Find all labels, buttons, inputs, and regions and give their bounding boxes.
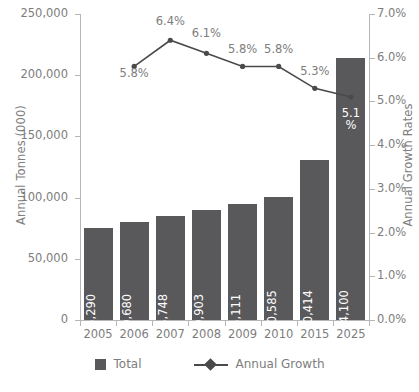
y-axis-title-left: Annual Tonnes (000) bbox=[14, 90, 28, 240]
y-tick-label-right: 5.0% bbox=[377, 93, 406, 107]
x-axis-label-2005: 2005 bbox=[80, 327, 116, 341]
x-axis-label-2009: 2009 bbox=[225, 327, 261, 341]
x-axis-label-2015: 2015 bbox=[297, 327, 333, 341]
x-axis-label-2007: 2007 bbox=[152, 327, 188, 341]
y-tick-left bbox=[75, 75, 80, 76]
annual-tonnes-growth-chart: Annual Tonnes (000) Annual Growth Rates … bbox=[0, 0, 419, 392]
y-tick-left bbox=[75, 136, 80, 137]
growth-line-marker bbox=[204, 51, 209, 56]
legend-swatch-icon bbox=[95, 359, 106, 370]
growth-value-label-2015: 5.3% bbox=[289, 64, 341, 78]
bar-2025: 214,1005.1% bbox=[336, 58, 365, 320]
y-tick-label-left: 150,000 bbox=[20, 128, 68, 142]
x-tick bbox=[261, 321, 262, 326]
y-tick-label-right: 7.0% bbox=[377, 6, 406, 20]
y-tick-right bbox=[370, 14, 375, 15]
x-tick bbox=[333, 321, 334, 326]
x-axis-label-2010: 2010 bbox=[261, 327, 297, 341]
y-tick-label-left: 200,000 bbox=[20, 67, 68, 81]
y-tick-right bbox=[370, 145, 375, 146]
y-tick-right bbox=[370, 276, 375, 277]
y-tick-label-right: 6.0% bbox=[377, 50, 406, 64]
x-tick bbox=[369, 321, 370, 326]
y-tick-label-left: 0 bbox=[61, 312, 68, 326]
bar-2009: 95,111 bbox=[228, 204, 257, 320]
y-tick-label-right: 3.0% bbox=[377, 181, 406, 195]
y-tick-left bbox=[75, 259, 80, 260]
y-tick-label-left: 100,000 bbox=[20, 190, 68, 204]
y-axis-title-right: Annual Growth Rates bbox=[401, 90, 415, 240]
y-tick-right bbox=[370, 189, 375, 190]
chart-legend: Total Annual Growth bbox=[0, 352, 419, 376]
y-axis-line-left bbox=[80, 14, 81, 321]
y-tick-label-right: 2.0% bbox=[377, 225, 406, 239]
growth-line-marker bbox=[168, 38, 173, 43]
growth-line-marker bbox=[240, 64, 245, 69]
growth-value-label-2008: 6.1% bbox=[180, 26, 232, 40]
growth-value-label-2010: 5.8% bbox=[253, 42, 305, 56]
y-tick-right bbox=[370, 101, 375, 102]
y-tick-label-right: 0.0% bbox=[377, 312, 406, 326]
bar-2010: 100,585 bbox=[264, 197, 293, 320]
y-axis-line-right bbox=[369, 14, 370, 321]
x-axis-label-2008: 2008 bbox=[188, 327, 224, 341]
bar-rect bbox=[336, 58, 365, 320]
y-tick-label-left: 50,000 bbox=[28, 251, 68, 265]
x-tick bbox=[225, 321, 226, 326]
legend-item-total: Total bbox=[95, 357, 142, 371]
y-tick-label-left: 250,000 bbox=[20, 6, 68, 20]
y-tick-right bbox=[370, 233, 375, 234]
y-tick-left bbox=[75, 198, 80, 199]
y-tick-right bbox=[370, 58, 375, 59]
growth-value-label-2025: 5.1% bbox=[336, 107, 365, 131]
y-tick-left bbox=[75, 14, 80, 15]
bar-2006: 79,680 bbox=[120, 222, 149, 320]
growth-value-label-2006: 5.8% bbox=[108, 66, 160, 80]
growth-line-marker bbox=[312, 86, 317, 91]
bar-2008: 89,903 bbox=[192, 210, 221, 320]
bar-2007: 84,748 bbox=[156, 216, 185, 320]
y-tick-right bbox=[370, 320, 375, 321]
x-tick bbox=[297, 321, 298, 326]
y-tick-label-right: 1.0% bbox=[377, 268, 406, 282]
bar-2005: 75,290 bbox=[84, 228, 113, 320]
bar-2015: 130,414 bbox=[300, 160, 329, 320]
y-tick-label-right: 4.0% bbox=[377, 137, 406, 151]
legend-line-diamond-icon bbox=[194, 359, 228, 370]
x-tick bbox=[80, 321, 81, 326]
x-axis-label-2025: 2025 bbox=[333, 327, 369, 341]
x-axis-label-2006: 2006 bbox=[116, 327, 152, 341]
x-tick bbox=[188, 321, 189, 326]
legend-label-annual-growth: Annual Growth bbox=[236, 357, 325, 371]
x-tick bbox=[116, 321, 117, 326]
growth-line-marker bbox=[276, 64, 281, 69]
x-tick bbox=[152, 321, 153, 326]
legend-label-total: Total bbox=[114, 357, 142, 371]
legend-item-annual-growth: Annual Growth bbox=[194, 357, 325, 371]
